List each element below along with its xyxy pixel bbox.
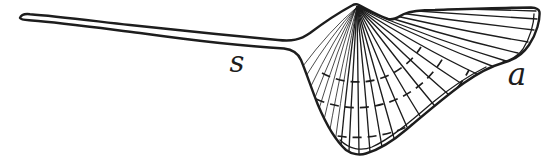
figure-canvas: s a — [0, 0, 553, 161]
shell-engraving-illustration: s a — [0, 0, 553, 161]
spine-and-shell-outline — [20, 4, 540, 154]
label-a: a — [508, 56, 526, 92]
label-s: s — [230, 45, 245, 79]
shell-outline-path — [20, 4, 540, 154]
